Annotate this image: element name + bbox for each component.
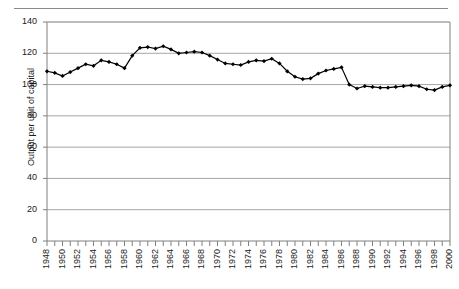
line-chart: 020406080100120140 194819501952195419561… (0, 0, 459, 289)
data-point-1968 (200, 50, 204, 54)
data-point-1961 (146, 45, 150, 49)
x-tick-label-1996: 1996 (414, 249, 423, 269)
x-tick-label-1980: 1980 (290, 249, 299, 269)
gridlines-group (47, 22, 450, 210)
x-tick-label-1966: 1966 (182, 249, 191, 269)
data-point-1976 (262, 59, 266, 63)
x-tick-label-1974: 1974 (244, 249, 253, 269)
data-point-1962 (153, 46, 157, 50)
x-tick-label-1970: 1970 (213, 249, 222, 269)
data-point-1949 (53, 71, 57, 75)
x-tick-label-1968: 1968 (197, 249, 206, 269)
data-point-1988 (355, 86, 359, 90)
x-tick-label-1978: 1978 (275, 249, 284, 269)
x-tick-label-1950: 1950 (58, 249, 67, 269)
data-point-1965 (177, 51, 181, 55)
x-tick-marks-group (47, 241, 450, 246)
data-point-1953 (84, 62, 88, 66)
data-point-1964 (169, 47, 173, 51)
x-tick-label-1952: 1952 (73, 249, 82, 269)
x-tick-label-1990: 1990 (368, 249, 377, 269)
data-point-1986 (339, 65, 343, 69)
data-point-1984 (324, 68, 328, 72)
x-tick-label-1972: 1972 (228, 249, 237, 269)
data-point-1997 (425, 87, 429, 91)
y-tick-label-0: 0 (13, 236, 37, 245)
x-tick-label-1984: 1984 (321, 249, 330, 269)
data-point-1948 (45, 69, 49, 73)
x-tick-label-1964: 1964 (166, 249, 175, 269)
data-point-1970 (215, 57, 219, 61)
data-point-1952 (76, 66, 80, 70)
x-tick-label-1948: 1948 (42, 249, 51, 269)
data-point-1957 (115, 62, 119, 66)
data-point-1981 (301, 77, 305, 81)
x-tick-label-1976: 1976 (259, 249, 268, 269)
data-point-1951 (68, 70, 72, 74)
data-point-1963 (161, 44, 165, 48)
x-tick-label-1986: 1986 (337, 249, 346, 269)
x-tick-label-1962: 1962 (151, 249, 160, 269)
x-tick-label-1988: 1988 (352, 249, 361, 269)
x-tick-label-1958: 1958 (120, 249, 129, 269)
data-point-1998 (432, 88, 436, 92)
data-point-2000 (448, 83, 452, 87)
data-point-1999 (440, 85, 444, 89)
data-point-1966 (184, 50, 188, 54)
y-tick-label-20: 20 (13, 205, 37, 214)
data-point-1991 (378, 86, 382, 90)
data-point-1950 (60, 74, 64, 78)
x-tick-label-1960: 1960 (135, 249, 144, 269)
data-point-1971 (223, 61, 227, 65)
data-point-1990 (370, 85, 374, 89)
x-tick-label-1954: 1954 (89, 249, 98, 269)
data-point-1974 (246, 60, 250, 64)
chart-plot-svg (0, 0, 459, 289)
data-point-1969 (208, 54, 212, 58)
data-point-1973 (239, 63, 243, 67)
data-point-1992 (386, 86, 390, 90)
data-point-1987 (347, 82, 351, 86)
x-tick-label-1994: 1994 (399, 249, 408, 269)
x-tick-label-1998: 1998 (430, 249, 439, 269)
data-point-1972 (231, 62, 235, 66)
data-point-1993 (394, 85, 398, 89)
data-point-1995 (409, 83, 413, 87)
chart-page: 020406080100120140 194819501952195419561… (0, 0, 459, 289)
axes-group (47, 22, 450, 241)
y-tick-label-140: 140 (13, 17, 37, 26)
data-point-1975 (254, 58, 258, 62)
x-tick-label-1992: 1992 (383, 249, 392, 269)
data-point-1956 (107, 60, 111, 64)
data-point-1985 (332, 67, 336, 71)
x-tick-label-1982: 1982 (306, 249, 315, 269)
x-tick-label-1956: 1956 (104, 249, 113, 269)
y-axis-title: Output per unit of capital (26, 42, 36, 192)
x-tick-label-2000: 2000 (445, 249, 454, 269)
y-tick-marks-group (43, 22, 47, 241)
